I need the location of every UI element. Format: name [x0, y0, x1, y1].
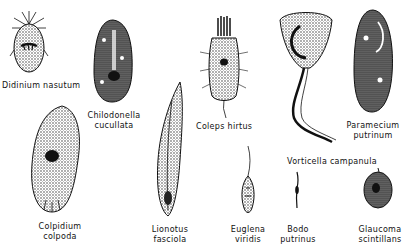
glaucoma-name-line1: Glaucoma: [350, 225, 410, 235]
euglena-name-line2: viridis: [226, 235, 270, 245]
label-didinium: Didinium nasutum: [2, 81, 64, 91]
label-euglena: Euglena viridis: [226, 225, 270, 245]
label-paramecium: Paramecium putrinum: [340, 121, 406, 141]
vorticella-name: Vorticella campanula: [287, 157, 377, 166]
paramecium-name-line2: putrinum: [340, 131, 406, 141]
coleps-name: Coleps hirtus: [196, 122, 252, 131]
glaucoma-name-line2: scintillans: [350, 235, 410, 245]
colpidium-name-line2: colpoda: [34, 232, 86, 242]
coleps-drawing: [200, 14, 248, 120]
didinium-drawing: [10, 10, 48, 78]
colpidium-name-line1: Colpidium: [34, 222, 86, 232]
lionotus-name-line1: Lionotus: [146, 225, 194, 235]
paramecium-drawing: [350, 8, 396, 114]
chilodonella-drawing: [92, 18, 134, 104]
vorticella-drawing: [276, 4, 336, 154]
didinium-name: Didinium nasutum: [2, 81, 80, 90]
bodo-name-line2: putrinus: [276, 235, 320, 245]
colpidium-drawing: [28, 104, 84, 216]
euglena-name-line1: Euglena: [226, 225, 270, 235]
label-colpidium: Colpidium colpoda: [34, 222, 86, 242]
label-glaucoma: Glaucoma scintillans: [350, 225, 410, 245]
paramecium-name-line1: Paramecium: [340, 121, 406, 131]
chilodonella-name-line1: Chilodonella: [86, 111, 142, 121]
bodo-name-line1: Bodo: [276, 225, 320, 235]
euglena-drawing: [238, 144, 258, 216]
chilodonella-name-line2: cucullata: [86, 121, 142, 131]
label-lionotus: Lionotus fasciola: [146, 225, 194, 245]
lionotus-drawing: [152, 80, 188, 218]
lionotus-name-line2: fasciola: [146, 235, 194, 245]
glaucoma-drawing: [362, 166, 394, 214]
bodo-drawing: [290, 170, 304, 210]
label-chilodonella: Chilodonella cucullata: [86, 111, 142, 131]
label-coleps: Coleps hirtus: [196, 122, 252, 132]
label-bodo: Bodo putrinus: [276, 225, 320, 245]
